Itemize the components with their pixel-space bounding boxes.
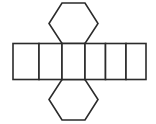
- lateral-face-6: [126, 44, 146, 80]
- rectangle-band: [13, 44, 146, 80]
- hexagonal-prism-net-figure: [0, 0, 156, 124]
- lateral-face-1: [13, 44, 39, 80]
- lateral-face-4: [85, 44, 106, 80]
- lateral-face-2: [39, 44, 62, 80]
- lateral-face-3: [62, 44, 85, 80]
- lateral-face-5: [106, 44, 127, 80]
